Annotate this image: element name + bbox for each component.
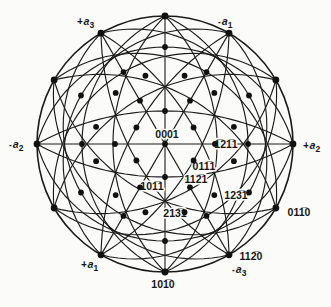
axis-label-minus-a3: -a3 — [232, 263, 247, 278]
pole-label-1-2-3-1: 123̅1 — [224, 189, 248, 201]
pole-label-0-1-1-0: 011̅0 — [288, 206, 311, 218]
pole-label-1-1-2-0: 112̅0 — [240, 250, 263, 262]
pole-label-1-0-1-1: 101̅1 — [140, 180, 164, 192]
stereographic-projection-figure: 0001 1̅21̅1 011̅1 112̅1 101̅1 123̅1 213̅… — [0, 0, 331, 307]
axis-label-minus-a2: -a2 — [9, 138, 24, 153]
axis-label-plus-a3: +a3 — [77, 15, 95, 30]
stereogram-svg: 0001 1̅21̅1 011̅1 112̅1 101̅1 123̅1 213̅… — [0, 0, 331, 307]
pole-label-1-1-2-1: 112̅1 — [185, 173, 208, 185]
axis-label-plus-a1: +a1 — [81, 258, 99, 273]
pole-label-0001: 0001 — [155, 128, 179, 140]
pole-label-1-0-1-0: 101̅0 — [151, 278, 175, 290]
axis-label-plus-a2: +a2 — [303, 139, 321, 154]
